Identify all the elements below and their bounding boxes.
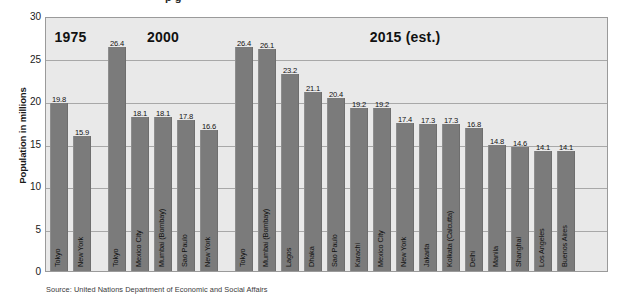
population-bar-chart: p g Population in millions 302520151050 … <box>0 0 624 303</box>
y-tick-label: 0 <box>15 267 41 277</box>
group-label-2: 2015 (est.) <box>345 29 465 45</box>
y-tick-label: 15 <box>15 140 41 150</box>
y-axis-tick-labels: 302520151050 <box>0 0 41 303</box>
bar <box>465 128 483 271</box>
bar-category-label: Mumbai (Bombay) <box>261 209 270 267</box>
bar-value-label: 14.1 <box>552 143 580 152</box>
y-tick-label: 20 <box>15 97 41 107</box>
plot-area: 19.8Tokyo15.9New York26.4Tokyo18.1Mexico… <box>45 17 608 272</box>
bar-category-label: Sao Paulo <box>330 234 339 267</box>
bar-category-label: Shanghai <box>514 237 523 267</box>
bar-category-label: Sao Paulo <box>180 234 189 267</box>
bar-category-label: Kolkata (Calcutta) <box>445 211 454 267</box>
chart-title-clipped: p g <box>45 0 608 8</box>
bar-category-label: Manila <box>491 246 500 267</box>
bar <box>235 47 253 271</box>
bar-value-label: 16.6 <box>195 122 223 131</box>
y-tick-label: 25 <box>15 55 41 65</box>
bar-category-label: Jakarta <box>422 244 431 267</box>
group-label-1: 2000 <box>103 29 223 45</box>
bar-category-label: Karachi <box>353 243 362 267</box>
bar-category-label: Lagos <box>284 248 293 267</box>
bar <box>281 74 299 271</box>
bar-category-label: Dhaka <box>307 246 316 267</box>
bar-category-label: Mexico City <box>134 230 143 267</box>
y-tick-label: 5 <box>15 225 41 235</box>
bar-category-label: Mexico City <box>376 230 385 267</box>
bar-value-label: 17.8 <box>172 112 200 121</box>
bar-category-label: New York <box>76 237 85 267</box>
bar <box>50 103 68 271</box>
y-tick-label: 30 <box>15 12 41 22</box>
bar-category-label: New York <box>399 237 408 267</box>
bar <box>304 92 322 271</box>
bar <box>108 47 126 271</box>
bar-value-label: 20.4 <box>322 90 350 99</box>
bar-value-label: 26.1 <box>253 41 281 50</box>
bar-value-label: 16.8 <box>460 120 488 129</box>
bar-category-label: New York <box>203 237 212 267</box>
bar-category-label: Tokyo <box>111 248 120 267</box>
bar-category-label: Tokyo <box>53 248 62 267</box>
bar-category-label: Mumbai (Bombay) <box>157 209 166 267</box>
bar-category-label: Delhi <box>468 251 477 267</box>
bars-layer: 19.8Tokyo15.9New York26.4Tokyo18.1Mexico… <box>46 18 607 271</box>
source-note: Source: United Nations Department of Eco… <box>46 285 268 294</box>
bar-category-label: Buenos Aires <box>560 225 569 267</box>
chart-title-text: p g <box>165 0 182 3</box>
y-tick-label: 10 <box>15 182 41 192</box>
bar-value-label: 19.8 <box>45 95 73 104</box>
bar-value-label: 15.9 <box>68 128 96 137</box>
bar-category-label: Los Angeles <box>537 228 546 267</box>
bar-value-label: 19.2 <box>368 100 396 109</box>
bar-category-label: Tokyo <box>238 248 247 267</box>
bar-value-label: 23.2 <box>276 66 304 75</box>
